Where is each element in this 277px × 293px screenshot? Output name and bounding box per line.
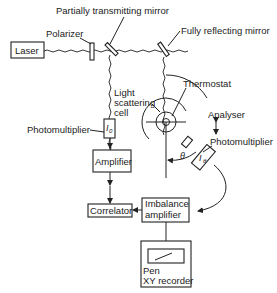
svg-text:θ: θ: [180, 151, 185, 161]
svg-text:Photomultiplier: Photomultiplier: [210, 136, 273, 147]
imbalance-amplifier: Imbalance amplifier: [142, 198, 189, 222]
svg-text:cell: cell: [114, 107, 128, 118]
svg-text:Correlator: Correlator: [90, 205, 132, 216]
svg-text:Fully reflecting mirror: Fully reflecting mirror: [181, 25, 270, 36]
apparatus-diagram: Laser Polarizer Partially transmitting m…: [0, 0, 277, 293]
svg-text:XY recorder: XY recorder: [143, 275, 194, 286]
svg-text:Partially transmitting mirror: Partially transmitting mirror: [56, 5, 169, 16]
theta-angle: θ: [168, 151, 196, 161]
svg-text:Amplifier: Amplifier: [95, 156, 132, 167]
sample-beam: [163, 57, 165, 135]
svg-text:Thermostat: Thermostat: [183, 78, 231, 89]
correlator: Correlator: [88, 204, 132, 217]
svg-text:Imbalance: Imbalance: [145, 198, 189, 209]
photomultiplier-theta: I θ Photomultiplier: [191, 136, 272, 170]
svg-text:Photomultiplier: Photomultiplier: [27, 124, 90, 135]
amplifier: Amplifier: [93, 150, 132, 172]
svg-text:Analyser: Analyser: [208, 109, 245, 120]
photomultiplier-reference: I 0 Photomultiplier: [27, 119, 115, 138]
svg-text:Laser: Laser: [15, 45, 39, 56]
thermostat: Thermostat: [142, 75, 231, 178]
cell-label: Light scattering cell: [114, 87, 160, 118]
svg-text:Polarizer: Polarizer: [46, 28, 84, 39]
theta-signal-line: [198, 165, 226, 211]
xy-recorder: Pen XY recorder: [141, 241, 194, 287]
svg-text:amplifier: amplifier: [145, 209, 181, 220]
polarizer: Polarizer: [46, 28, 94, 60]
laser: Laser: [11, 42, 44, 58]
